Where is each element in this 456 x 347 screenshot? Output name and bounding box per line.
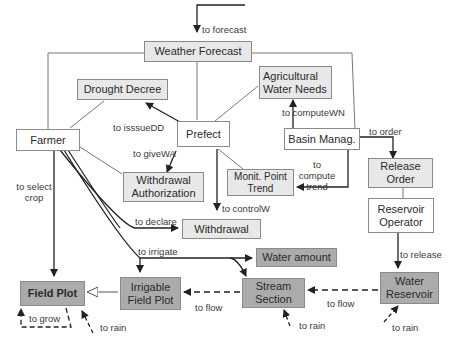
label-to-grow: to grow <box>29 313 60 324</box>
node-withdrawal-authorization[interactable]: Withdrawal Authorization <box>123 172 204 202</box>
label-to-irrigate: to irrigate <box>138 246 178 257</box>
node-monit-point-trend[interactable]: Monit. Point Trend <box>227 169 294 196</box>
label-to-release: to release <box>400 249 442 260</box>
label-to-controlW: to controlW <box>222 203 270 214</box>
node-reservoir-operator[interactable]: Reservoir Operator <box>368 198 434 233</box>
label-to-rain-3: to rain <box>392 322 418 333</box>
node-release-order[interactable]: Release Order <box>368 158 433 188</box>
label-to-select-crop: to select crop <box>12 181 56 203</box>
diagram-canvas: Weather Forecast Drought Decree Agricult… <box>0 0 456 347</box>
label-to-forecast: to forecast <box>202 24 246 35</box>
node-drought-decree[interactable]: Drought Decree <box>77 79 168 100</box>
node-withdrawal[interactable]: Withdrawal <box>182 219 261 239</box>
label-to-flow-1: to flow <box>195 302 222 313</box>
node-water-amount[interactable]: Water amount <box>256 248 337 267</box>
node-irrigable-field-plot[interactable]: Irrigable Field Plot <box>120 277 181 310</box>
label-to-rain-1: to rain <box>100 322 126 333</box>
node-prefect[interactable]: Prefect <box>177 121 230 147</box>
label-to-declare: to declare <box>135 216 177 227</box>
node-weather-forecast[interactable]: Weather Forecast <box>144 41 252 62</box>
label-to-rain-2: to rain <box>299 320 325 331</box>
node-stream-section[interactable]: Stream Section <box>242 278 305 308</box>
label-to-flow-2: to flow <box>327 298 354 309</box>
node-field-plot[interactable]: Field Plot <box>20 281 85 306</box>
node-basin-manag[interactable]: Basin Manag. <box>284 128 360 150</box>
label-to-order: to order <box>369 126 402 137</box>
node-agricultural-water-needs[interactable]: Agricultural Water Needs <box>259 66 332 99</box>
label-to-giveWA: to giveWA <box>133 148 176 159</box>
node-water-reservoir[interactable]: Water Reservoir <box>380 272 439 304</box>
label-to-compute-trend: to compute trend <box>294 159 340 192</box>
label-to-computeWN: to computeWN <box>282 107 345 118</box>
label-to-issueDD: to isssueDD <box>113 122 164 133</box>
node-farmer[interactable]: Farmer <box>16 129 80 151</box>
